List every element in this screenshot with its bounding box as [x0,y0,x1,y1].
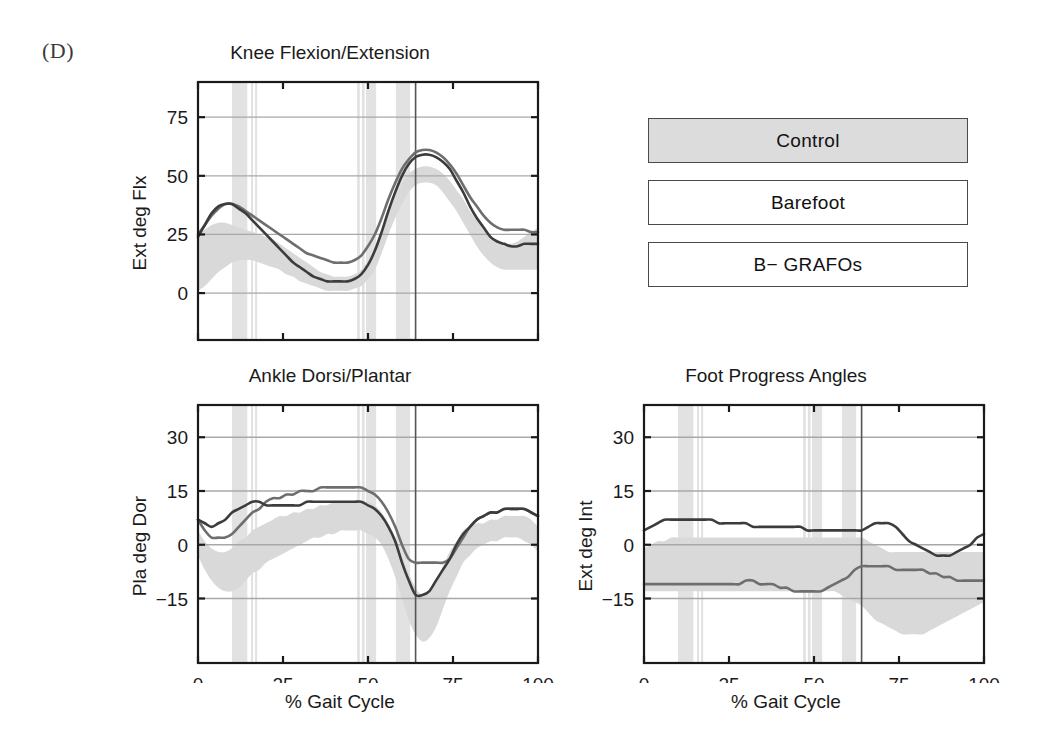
event-marker-band [808,405,811,663]
chart-ankle-dorsi-plantar: Ankle Dorsi/Plantar Pla deg Dor −1501530… [100,365,560,725]
legend-item-barefoot-label: Barefoot [771,192,845,214]
legend-item-barefoot[interactable]: Barefoot [648,180,968,225]
y-tick-label: 30 [613,427,634,448]
figure-root: (D) Knee Flexion/Extension Ext deg Flx 0… [0,0,1046,754]
event-marker-band [697,405,699,663]
event-marker-band [678,405,693,663]
event-marker-band [255,82,257,340]
event-marker-band [366,82,376,340]
legend-item-b-grafos[interactable]: B− GRAFOs [648,242,968,287]
y-tick-label: −15 [602,589,634,610]
y-tick-label: −15 [156,589,188,610]
panel-label: (D) [42,38,74,64]
x-tick-label: 100 [968,674,1000,683]
x-tick-label: 50 [803,674,824,683]
event-marker-band [362,82,365,340]
x-tick-label: 75 [442,674,463,683]
y-tick-label: 25 [167,224,188,245]
x-axis-label-foot: % Gait Cycle [586,691,986,713]
y-tick-label: 0 [177,283,188,304]
legend: Control Barefoot B− GRAFOs [648,118,968,287]
chart-knee-flexion-extension: Knee Flexion/Extension Ext deg Flx 02550… [100,42,560,352]
event-marker-band [357,405,360,663]
event-marker-band [842,405,856,663]
y-tick-label: 50 [167,166,188,187]
event-marker-band [812,405,822,663]
event-marker-band [362,405,365,663]
y-tick-label: 0 [623,535,634,556]
plot-area-foot: −15015300255075100 [546,393,1006,683]
legend-item-control[interactable]: Control [648,118,968,163]
y-tick-label: 0 [177,535,188,556]
event-marker-band [232,405,247,663]
y-tick-label: 30 [167,427,188,448]
chart-title-ankle: Ankle Dorsi/Plantar [100,365,560,387]
x-axis-label-ankle: % Gait Cycle [140,691,540,713]
plot-area-ankle: −15015300255075100 [100,393,560,683]
y-tick-label: 15 [167,481,188,502]
y-tick-label: 15 [613,481,634,502]
x-tick-label: 0 [193,674,204,683]
x-tick-label: 75 [888,674,909,683]
chart-foot-progress-angles: Foot Progress Angles Ext deg Int −150153… [546,365,1006,725]
x-tick-label: 25 [718,674,739,683]
x-tick-label: 0 [639,674,650,683]
event-marker-band [251,82,253,340]
chart-title-knee: Knee Flexion/Extension [100,42,560,64]
legend-item-control-label: Control [776,130,839,152]
event-marker-band [803,405,806,663]
plot-area-knee: 0255075 [100,70,560,360]
chart-title-foot: Foot Progress Angles [546,365,1006,387]
event-marker-band [701,405,703,663]
x-tick-label: 50 [357,674,378,683]
event-marker-band [357,82,360,340]
legend-item-b-grafos-label: B− GRAFOs [754,254,863,276]
y-tick-label: 75 [167,107,188,128]
x-tick-label: 25 [272,674,293,683]
